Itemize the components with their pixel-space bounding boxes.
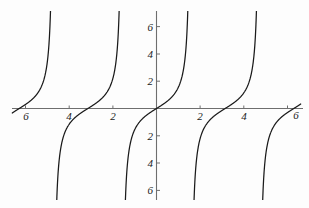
tangent-branch (191, 0, 259, 208)
y-tick-label-neg6: 6 (148, 185, 154, 196)
x-tick-label-neg2: 2 (110, 111, 116, 122)
y-tick-label-pos6: 6 (148, 21, 154, 32)
x-tick-label-neg6: 6 (23, 111, 29, 122)
y-tick-label-pos4: 4 (148, 49, 154, 60)
y-tick-label-pos2: 2 (148, 76, 154, 87)
y-tick-label-neg4: 4 (148, 158, 154, 169)
y-tick-label-neg2: 2 (148, 130, 154, 141)
x-tick-label-pos2: 2 (197, 111, 203, 122)
axis-group (12, 11, 303, 200)
tangent-branch (12, 0, 53, 113)
tangent-function-plot: 6 4 2 2 4 6 6 4 2 2 4 6 (0, 0, 309, 208)
x-tick-label-pos4: 4 (241, 111, 247, 122)
tangent-branch (54, 0, 122, 208)
plot-canvas (0, 0, 309, 208)
x-tick-label-neg4: 4 (66, 111, 72, 122)
x-tick-label-pos6: 6 (293, 110, 299, 121)
